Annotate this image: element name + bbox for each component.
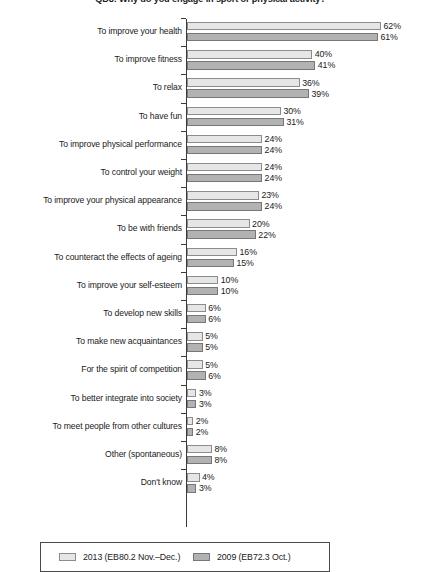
bar-2013[interactable]: 6% — [187, 304, 206, 312]
category-label: To develop new skills — [103, 307, 182, 319]
bar-row: Other (spontaneous)8%8% — [0, 441, 421, 469]
category-label: To relax — [153, 81, 182, 93]
bar-group: 36%39% — [187, 78, 309, 97]
bar-value-label: 39% — [312, 89, 329, 99]
axis-tick — [181, 385, 186, 386]
bar-row: To relax36%39% — [0, 74, 421, 102]
bar-value-label: 5% — [205, 360, 218, 370]
bar-row: For the spirit of competition5%6% — [0, 356, 421, 384]
bar-2009[interactable]: 24% — [187, 202, 262, 210]
bar-value-label: 24% — [265, 162, 282, 172]
category-label: For the spirit of competition — [81, 363, 182, 375]
axis-tick — [181, 131, 186, 132]
bar-row: To improve your health62%61% — [0, 18, 421, 46]
axis-tick — [181, 244, 186, 245]
axis-tick — [181, 300, 186, 301]
category-label: To have fun — [139, 110, 182, 122]
axis-tick — [181, 413, 186, 414]
bar-group: 5%6% — [187, 360, 206, 379]
bar-value-label: 23% — [261, 190, 278, 200]
bar-group: 20%22% — [187, 219, 256, 238]
bar-group: 23%24% — [187, 191, 262, 210]
bar-value-label: 3% — [199, 399, 212, 409]
bar-value-label: 6% — [208, 371, 221, 381]
bar-2013[interactable]: 10% — [187, 276, 218, 284]
bar-2009[interactable]: 24% — [187, 146, 262, 154]
bar-value-label: 10% — [221, 286, 238, 296]
bar-value-label: 24% — [265, 173, 282, 183]
bar-row: To improve fitness40%41% — [0, 46, 421, 74]
bar-value-label: 30% — [283, 106, 300, 116]
bar-2013[interactable]: 23% — [187, 191, 259, 199]
bar-2009[interactable]: 24% — [187, 174, 262, 182]
chart-legend: 2013 (EB80.2 Nov.–Dec.) 2009 (EB72.3 Oct… — [40, 542, 330, 572]
category-label: To be with friends — [117, 222, 182, 234]
bar-2009[interactable]: 3% — [187, 484, 196, 492]
legend-item-2013[interactable]: 2013 (EB80.2 Nov.–Dec.) — [59, 552, 180, 562]
bar-2009[interactable]: 6% — [187, 371, 206, 379]
axis-tick — [181, 328, 186, 329]
bar-2013[interactable]: 24% — [187, 135, 262, 143]
bar-2009[interactable]: 6% — [187, 315, 206, 323]
bar-2013[interactable]: 5% — [187, 360, 203, 368]
bar-value-label: 41% — [318, 60, 335, 70]
bar-group: 10%10% — [187, 276, 218, 295]
bar-value-label: 5% — [205, 342, 218, 352]
bar-value-label: 8% — [215, 444, 228, 454]
axis-tick — [181, 215, 186, 216]
category-label: To improve fitness — [115, 53, 182, 65]
category-label: To improve your physical appearance — [43, 194, 182, 206]
bar-2013[interactable]: 62% — [187, 22, 381, 30]
bar-2009[interactable]: 5% — [187, 343, 203, 351]
bar-value-label: 40% — [315, 49, 332, 59]
bar-row: To be with friends20%22% — [0, 215, 421, 243]
bar-value-label: 61% — [380, 32, 397, 42]
bar-2013[interactable]: 20% — [187, 219, 250, 227]
bar-group: 16%15% — [187, 248, 237, 267]
legend-label-2009: 2009 (EB72.3 Oct.) — [217, 552, 291, 562]
bar-2013[interactable]: 3% — [187, 389, 196, 397]
axis-tick — [181, 441, 186, 442]
legend-swatch-2013 — [59, 553, 76, 561]
category-label: To improve physical performance — [59, 138, 182, 150]
bar-value-label: 6% — [208, 303, 221, 313]
bar-group: 5%5% — [187, 332, 203, 351]
bar-2009[interactable]: 15% — [187, 259, 234, 267]
bar-value-label: 6% — [208, 314, 221, 324]
category-label: To make new acquaintances — [76, 335, 182, 347]
bar-2013[interactable]: 36% — [187, 78, 300, 86]
bar-2013[interactable]: 40% — [187, 50, 312, 58]
category-label: To meet people from other cultures — [53, 420, 182, 432]
bar-2009[interactable]: 2% — [187, 428, 193, 436]
legend-item-2009[interactable]: 2009 (EB72.3 Oct.) — [193, 552, 291, 562]
bar-value-label: 4% — [202, 472, 215, 482]
bar-2013[interactable]: 16% — [187, 248, 237, 256]
bar-2013[interactable]: 24% — [187, 163, 262, 171]
bar-2009[interactable]: 31% — [187, 118, 284, 126]
bar-value-label: 8% — [215, 455, 228, 465]
bar-group: 30%31% — [187, 107, 284, 126]
bar-row: To improve your self-esteem10%10% — [0, 272, 421, 300]
category-label: To improve your health — [97, 25, 182, 37]
bar-2009[interactable]: 10% — [187, 287, 218, 295]
bar-group: 8%8% — [187, 445, 212, 464]
legend-swatch-2009 — [193, 553, 210, 561]
bar-2013[interactable]: 30% — [187, 107, 281, 115]
bar-2013[interactable]: 4% — [187, 473, 200, 481]
bar-group: 3%3% — [187, 389, 196, 408]
chart-title: QD8: Why do you engage in sport or physi… — [0, 0, 421, 4]
bar-2009[interactable]: 39% — [187, 89, 309, 97]
bar-2009[interactable]: 8% — [187, 456, 212, 464]
bar-value-label: 2% — [196, 416, 209, 426]
bar-row: To better integrate into society3%3% — [0, 385, 421, 413]
bar-value-label: 24% — [265, 134, 282, 144]
bar-2009[interactable]: 22% — [187, 230, 256, 238]
axis-tick — [181, 74, 186, 75]
bar-value-label: 15% — [236, 258, 253, 268]
bar-2013[interactable]: 8% — [187, 445, 212, 453]
bar-2013[interactable]: 5% — [187, 332, 203, 340]
bar-2009[interactable]: 41% — [187, 61, 315, 69]
bar-2009[interactable]: 61% — [187, 33, 378, 41]
bar-2009[interactable]: 3% — [187, 400, 196, 408]
bar-2013[interactable]: 2% — [187, 417, 193, 425]
